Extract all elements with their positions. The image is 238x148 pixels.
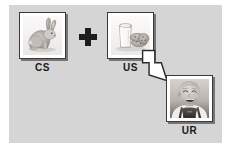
conditioning-diagram: CS: [0, 0, 238, 148]
cs-image-box[interactable]: [19, 12, 66, 59]
ur-label: UR: [166, 125, 213, 136]
cs-label: CS: [19, 62, 66, 73]
smiling-child-photo: [170, 79, 209, 118]
ur-image-box[interactable]: [166, 75, 213, 122]
plus-vertical-bar: [85, 28, 91, 46]
plus-sign: [79, 28, 97, 46]
rabbit-photo: [23, 16, 62, 55]
